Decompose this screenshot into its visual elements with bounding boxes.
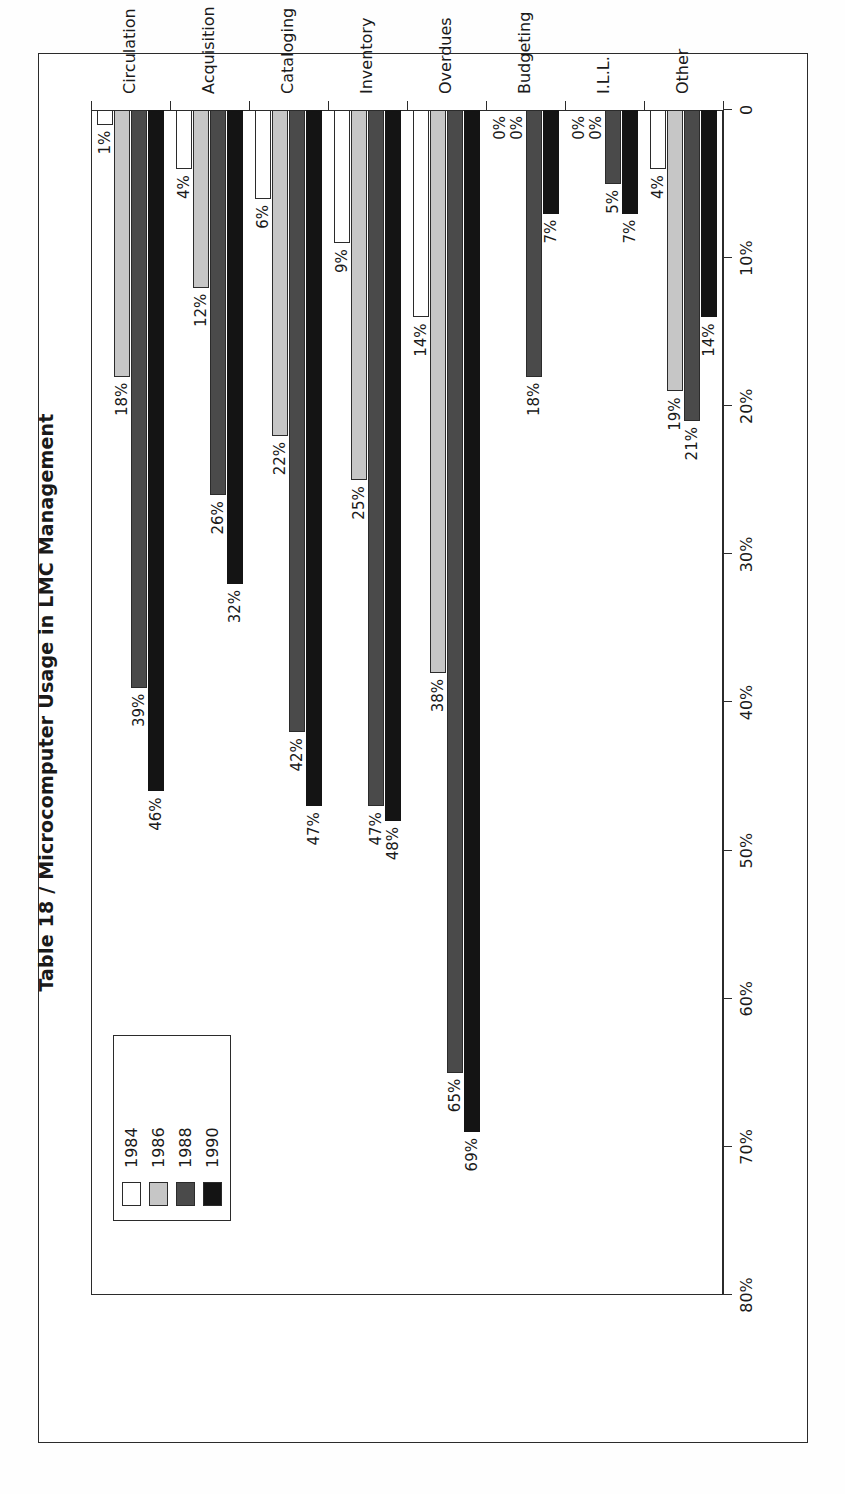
bar-value-label: 65% [446,1079,464,1112]
category-tick [91,101,92,110]
bar-1984-other [650,110,666,169]
bar-1988-ill [605,110,621,184]
axis-tick-label: 60% [737,981,756,1017]
bar-value-label: 25% [350,486,368,519]
bar-1986-overdues [430,110,446,673]
bar-value-label: 14% [412,323,430,356]
bar-1984-acquisition [176,110,192,169]
figure-outer-frame: Table 18 / Microcomputer Usage in LMC Ma… [38,53,808,1443]
category-tick [723,101,724,110]
category-group: Other4%19%21%14% [644,110,723,1295]
bar-value-label: 21% [683,427,701,460]
bar-value-label: 14% [700,323,718,356]
bar-1984-cataloging [255,110,271,199]
bar-1988-overdues [447,110,463,1073]
bar-value-label: 26% [209,501,227,534]
category-tick [328,101,329,110]
legend-item: 1988 [174,1050,198,1206]
bar-value-label: 4% [175,175,193,199]
axis-tick-label: 0 [737,105,756,115]
bar-value-label: 12% [192,294,210,327]
category-tick [170,101,171,110]
category-group: Cataloging6%22%42%47% [249,110,328,1295]
bar-1990-other [701,110,717,317]
bar-value-label: 39% [130,694,148,727]
axis-tick [723,702,732,703]
axis-tick [723,1294,732,1295]
bar-value-label: 6% [254,205,272,229]
category-tick [565,101,566,110]
bar-value-label: 47% [367,812,385,845]
axis-tick-label: 50% [737,833,756,869]
page-canvas: Table 18 / Microcomputer Usage in LMC Ma… [0,0,845,1494]
legend-item: 1990 [200,1050,224,1206]
bar-value-label: 18% [525,383,543,416]
category-label: Inventory [357,0,376,94]
bar-1990-cataloging [306,110,322,806]
bar-value-label: 32% [226,590,244,623]
category-tick [407,101,408,110]
bar-1990-acquisition [227,110,243,584]
category-label: Acquisition [199,0,218,94]
axis-tick [723,405,732,406]
category-label: I.L.L. [594,0,613,94]
bar-1986-cataloging [272,110,288,436]
axis-tick-label: 80% [737,1277,756,1313]
axis-tick [723,1146,732,1147]
bar-1990-overdues [464,110,480,1132]
legend-swatch-1984 [122,1182,141,1206]
bar-value-label: 0% [508,116,526,140]
category-label: Cataloging [278,0,297,94]
axis-tick-label: 70% [737,1129,756,1165]
legend-item: 1984 [120,1050,144,1206]
legend-label: 1986 [149,1127,168,1168]
legend-swatch-1990 [203,1182,222,1206]
bar-value-label: 19% [666,397,684,430]
bar-1988-other [684,110,700,421]
category-tick [249,101,250,110]
bar-1988-cataloging [289,110,305,732]
bar-value-label: 1% [96,131,114,155]
bar-1984-circulation [97,110,113,125]
legend-label: 1990 [203,1127,222,1168]
bar-value-label: 69% [463,1138,481,1171]
rotated-chart-container: Table 18 / Microcomputer Usage in LMC Ma… [73,83,773,1413]
category-label: Budgeting [515,0,534,94]
bar-value-label: 0% [587,116,605,140]
bar-value-label: 0% [570,116,588,140]
axis-tick-label: 20% [737,388,756,424]
bar-1990-inventory [385,110,401,821]
bar-value-label: 38% [429,679,447,712]
bar-value-label: 0% [491,116,509,140]
bar-value-label: 46% [147,797,165,830]
category-tick [644,101,645,110]
bar-1984-overdues [413,110,429,317]
bar-value-label: 42% [288,738,306,771]
bar-1990-circulation [148,110,164,791]
bar-1990-ill [622,110,638,214]
legend-item: 1986 [147,1050,171,1206]
bar-value-label: 5% [604,190,622,214]
axis-tick [723,257,732,258]
legend: 1984198619881990 [113,1035,231,1221]
bar-1988-circulation [131,110,147,688]
bar-value-label: 18% [113,383,131,416]
bar-value-label: 48% [384,827,402,860]
bar-1986-circulation [114,110,130,377]
bar-1986-inventory [351,110,367,480]
bar-value-label: 7% [542,220,560,244]
legend-label: 1984 [122,1127,141,1168]
category-tick [486,101,487,110]
axis-tick-label: 40% [737,685,756,721]
bar-value-label: 22% [271,442,289,475]
bar-value-label: 9% [333,249,351,273]
axis-tick [723,109,732,110]
axis-tick-label: 10% [737,240,756,276]
category-label: Overdues [436,0,455,94]
bar-value-label: 47% [305,812,323,845]
bar-1988-inventory [368,110,384,806]
bar-1988-budgeting [526,110,542,377]
legend-swatch-1986 [149,1182,168,1206]
axis-tick-label: 30% [737,537,756,573]
legend-swatch-1988 [176,1182,195,1206]
